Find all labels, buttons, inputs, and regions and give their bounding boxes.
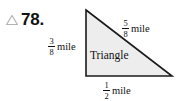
fraction-numerator: 3 [48,37,54,46]
problem-figure-page: 78. Triangle 3 8 mile 5 8 mile 1 2 mil [0,0,183,101]
fraction-denominator: 8 [122,30,128,39]
fraction-denominator: 8 [48,48,54,57]
unit-label: mile [57,42,76,53]
shape-inner-label: Triangle [90,50,129,62]
fraction-numerator: 1 [103,81,109,90]
base-measure: 1 2 mile [103,81,131,101]
fraction-numerator: 5 [122,19,128,28]
fraction-five-eighths: 5 8 [122,19,129,39]
hypotenuse-measure: 5 8 mile [122,19,150,39]
fraction-three-eighths: 3 8 [48,37,55,57]
fraction-denominator: 2 [103,92,109,101]
unit-label: mile [131,24,150,35]
left-side-measure: 3 8 mile [48,37,76,57]
unit-label: mile [112,86,131,97]
fraction-one-half: 1 2 [103,81,110,101]
